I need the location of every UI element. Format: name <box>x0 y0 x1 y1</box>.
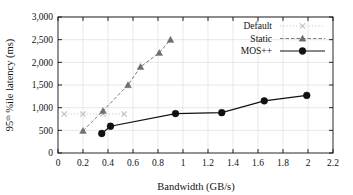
legend-label: MOS++ <box>241 46 272 56</box>
chart-svg: 00.20.40.60.811.21.41.61.822.2 05001,000… <box>0 0 353 195</box>
x-tick-label: 2 <box>306 158 311 168</box>
y-tick-label: 0 <box>48 148 53 158</box>
data-point-marker <box>100 107 107 113</box>
y-tick-label: 1,000 <box>32 103 54 113</box>
data-point-marker <box>261 97 268 104</box>
data-point-marker <box>299 48 306 55</box>
x-tick-label: 0 <box>56 158 61 168</box>
x-tick-labels: 00.20.40.60.811.21.41.61.822.2 <box>56 158 340 168</box>
legend-item-default[interactable]: Default <box>244 21 326 31</box>
x-tick-label: 1.2 <box>202 158 214 168</box>
y-axis-title: 95th %ile latency (ms) <box>4 38 17 131</box>
data-point-marker <box>125 82 132 88</box>
x-tick-label: 0.4 <box>102 158 114 168</box>
data-point-marker <box>172 110 179 117</box>
chart-figure: 00.20.40.60.811.21.41.61.822.2 05001,000… <box>0 0 353 195</box>
x-tick-label: 0.2 <box>77 158 89 168</box>
series-line <box>102 95 307 133</box>
x-tick-label: 1.6 <box>252 158 264 168</box>
data-point-marker <box>98 130 105 137</box>
legend-label: Default <box>244 21 273 31</box>
data-point-marker <box>218 109 225 116</box>
x-tick-label: 0.6 <box>127 158 139 168</box>
x-tick-label: 0.8 <box>152 158 164 168</box>
x-tick-label: 1.4 <box>227 158 239 168</box>
y-tick-label: 500 <box>39 126 54 136</box>
x-axis-title: Bandwidth (GB/s) <box>157 181 235 193</box>
y-axis-title-main: 95 <box>4 121 15 132</box>
data-point-marker <box>303 92 310 99</box>
data-point-marker <box>137 63 144 69</box>
legend-item-static[interactable]: Static <box>250 34 325 44</box>
x-tick-label: 1.8 <box>277 158 289 168</box>
svg-text:95th %ile latency (ms): 95th %ile latency (ms) <box>4 38 17 131</box>
legend-label: Static <box>250 34 272 44</box>
data-series-layer <box>62 36 311 137</box>
y-tick-label: 1,500 <box>32 80 54 90</box>
y-tick-labels: 05001,0001,5002,0002,5003,000 <box>32 12 54 158</box>
y-tick-label: 2,500 <box>32 35 54 45</box>
x-tick-label: 1 <box>181 158 186 168</box>
data-point-marker <box>167 36 174 42</box>
y-tick-label: 2,000 <box>32 58 54 68</box>
x-tick-label: 2.2 <box>327 158 339 168</box>
series-default <box>62 111 127 116</box>
y-axis-title-rest: %ile latency (ms) <box>4 38 16 115</box>
data-point-marker <box>300 23 305 28</box>
y-tick-label: 3,000 <box>32 12 54 22</box>
data-point-marker <box>107 123 114 130</box>
data-point-marker <box>62 111 67 116</box>
